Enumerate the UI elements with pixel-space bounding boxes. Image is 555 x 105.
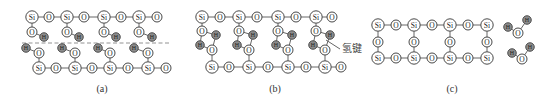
atom-symbol: O bbox=[484, 38, 490, 47]
atom-symbol: H bbox=[525, 17, 530, 23]
atom-o: O bbox=[44, 12, 54, 22]
atom-symbol: H bbox=[274, 42, 279, 48]
bond-line bbox=[37, 34, 40, 35]
atom-symbol: O bbox=[465, 54, 471, 63]
bond-line bbox=[66, 50, 70, 52]
atom-si: Si bbox=[282, 61, 294, 73]
atom-o: O bbox=[263, 62, 273, 72]
atom-o: O bbox=[482, 37, 492, 47]
atom-symbol: H bbox=[290, 32, 295, 38]
atom-symbol: H bbox=[311, 42, 316, 48]
atom-symbol: Si bbox=[29, 13, 35, 22]
atom-symbol: H bbox=[150, 34, 155, 40]
atom-symbol: H bbox=[506, 24, 511, 30]
atom-si: Si bbox=[133, 11, 145, 23]
atom-o: O bbox=[234, 26, 244, 36]
hydrogen-bond-line bbox=[250, 39, 252, 45]
atom-h: H bbox=[75, 33, 84, 42]
atom-o: O bbox=[27, 27, 37, 37]
atom-symbol: H bbox=[328, 32, 333, 38]
atom-symbol: O bbox=[393, 21, 399, 30]
atom-symbol: O bbox=[199, 27, 205, 36]
hydrogen-bond-line bbox=[289, 39, 291, 45]
atom-h: H bbox=[40, 33, 49, 42]
atom-symbol: Si bbox=[236, 13, 242, 22]
atom-symbol: Si bbox=[145, 64, 151, 73]
atom-symbol: O bbox=[285, 46, 291, 55]
atom-symbol: Si bbox=[484, 54, 490, 63]
atom-o: O bbox=[283, 45, 293, 55]
atom-symbol: O bbox=[89, 64, 95, 73]
atom-o: O bbox=[79, 12, 89, 22]
atom-symbol: O bbox=[515, 29, 521, 38]
bond-line bbox=[30, 50, 34, 52]
atom-symbol: O bbox=[145, 49, 151, 58]
atom-o: O bbox=[70, 48, 80, 58]
bond-line bbox=[280, 47, 283, 48]
atom-o: O bbox=[517, 54, 527, 64]
atom-symbol: H bbox=[235, 42, 240, 48]
atom-symbol: Si bbox=[107, 64, 113, 73]
atom-symbol: Si bbox=[313, 13, 319, 22]
atom-o: O bbox=[99, 27, 109, 37]
atom-h: H bbox=[309, 41, 318, 50]
atom-symbol: O bbox=[101, 28, 107, 37]
hydrogen-bond-line bbox=[201, 36, 202, 41]
atom-symbol: O bbox=[246, 46, 252, 55]
atom-symbol: Si bbox=[447, 54, 453, 63]
atom-symbol: O bbox=[64, 28, 70, 37]
atom-o: O bbox=[224, 62, 234, 72]
atom-si: Si bbox=[98, 11, 110, 23]
bond-line bbox=[144, 34, 148, 36]
atom-si: Si bbox=[33, 62, 45, 74]
atom-o: O bbox=[463, 53, 473, 63]
atom-h: H bbox=[326, 31, 335, 40]
atom-symbol: Si bbox=[411, 54, 417, 63]
atom-o: O bbox=[445, 37, 455, 47]
bond-line bbox=[109, 34, 112, 35]
atom-symbol: H bbox=[198, 42, 203, 48]
atom-si: Si bbox=[61, 11, 73, 23]
atom-o: O bbox=[143, 48, 153, 58]
atom-o: O bbox=[105, 48, 115, 58]
atom-symbol: Si bbox=[375, 21, 381, 30]
atom-symbol: O bbox=[265, 63, 271, 72]
atom-symbol: Si bbox=[246, 63, 252, 72]
atom-h: H bbox=[288, 31, 297, 40]
atom-si: Si bbox=[26, 11, 38, 23]
atom-si: Si bbox=[206, 61, 218, 73]
atom-o: O bbox=[513, 28, 523, 38]
atom-o: O bbox=[252, 12, 262, 22]
atom-symbol: O bbox=[411, 38, 417, 47]
atom-symbol: O bbox=[29, 28, 35, 37]
atom-o: O bbox=[427, 53, 437, 63]
atom-h: H bbox=[508, 49, 517, 58]
atom-symbol: H bbox=[132, 45, 137, 51]
silica-surface-diagram: SiOSiOSiOSiOOHOHOHOHHOHOHOHOSiOSiOSiOSiO… bbox=[0, 0, 555, 105]
atom-si: Si bbox=[444, 19, 456, 31]
bond-line bbox=[204, 47, 207, 48]
atom-h: H bbox=[233, 41, 242, 50]
atom-o: O bbox=[207, 45, 217, 55]
atom-symbol: Si bbox=[72, 64, 78, 73]
atom-symbol: O bbox=[329, 13, 335, 22]
atom-o: O bbox=[391, 20, 401, 30]
hydrogen-bond-line bbox=[238, 36, 239, 41]
atom-o: O bbox=[391, 53, 401, 63]
atom-si: Si bbox=[272, 11, 284, 23]
atom-symbol: O bbox=[136, 28, 142, 37]
atom-h: H bbox=[148, 33, 157, 42]
hydrogen-bond-line bbox=[213, 39, 215, 45]
molecular-figure: SiOSiOSiOSiOOHOHOHOHHOHOHOHOSiOSiOSiOSiO… bbox=[0, 0, 555, 105]
atom-si: Si bbox=[481, 19, 493, 31]
atom-o: O bbox=[311, 26, 321, 36]
atom-h: H bbox=[504, 23, 513, 32]
atom-symbol: O bbox=[375, 38, 381, 47]
atom-o: O bbox=[123, 63, 133, 73]
atom-h: H bbox=[526, 43, 535, 52]
atom-o: O bbox=[273, 26, 283, 36]
atom-symbol: O bbox=[118, 13, 124, 22]
atom-symbol: Si bbox=[411, 21, 417, 30]
atom-si: Si bbox=[104, 62, 116, 74]
atom-symbol: Si bbox=[64, 13, 70, 22]
